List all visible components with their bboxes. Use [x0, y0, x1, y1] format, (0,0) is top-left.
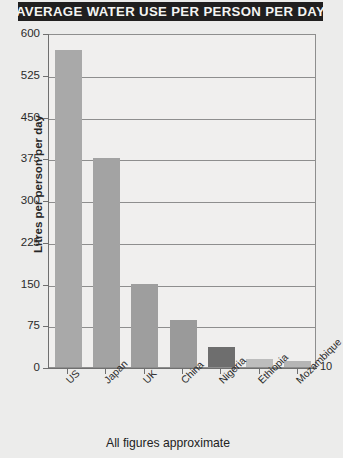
y-axis-tick-label: 150: [21, 279, 40, 290]
y-axis-line: [48, 34, 49, 369]
chart-title-banner: AVERAGE WATER USE PER PERSON PER DAY: [18, 2, 323, 21]
gridline: [49, 244, 315, 245]
gridline: [49, 202, 315, 203]
y-axis-tick-label: 600: [21, 28, 40, 39]
chart-footnote: All figures approximate: [0, 436, 336, 450]
y-axis-tick-label: 75: [27, 320, 40, 331]
y-axis-tick-label: 300: [21, 195, 40, 206]
y-axis-tick: [43, 34, 48, 35]
y-axis-tick: [43, 118, 48, 119]
gridline: [49, 119, 315, 120]
gridline: [49, 160, 315, 161]
plot-area: [48, 34, 316, 368]
y-axis-tick-label: 225: [21, 237, 40, 248]
y-axis-tick-label: 375: [21, 153, 40, 164]
bar-us: [55, 50, 82, 367]
page-title: AVERAGE WATER USE PER PERSON PER DAY: [16, 4, 325, 19]
y-axis-tick: [43, 243, 48, 244]
y-axis-tick: [43, 285, 48, 286]
y-axis-tick-label: 525: [21, 70, 40, 81]
gridline: [49, 77, 315, 78]
y-axis-tick-label: 0: [34, 362, 40, 373]
bar-china: [170, 320, 197, 367]
y-axis-tick: [43, 76, 48, 77]
bar-uk: [131, 284, 158, 368]
gridline: [49, 286, 315, 287]
y-axis-tick: [43, 326, 48, 327]
y-axis-tick: [43, 201, 48, 202]
y-axis-tick-label: 450: [21, 112, 40, 123]
y-axis-tick: [43, 159, 48, 160]
bar-japan: [93, 158, 120, 367]
y-axis-tick: [43, 368, 48, 369]
